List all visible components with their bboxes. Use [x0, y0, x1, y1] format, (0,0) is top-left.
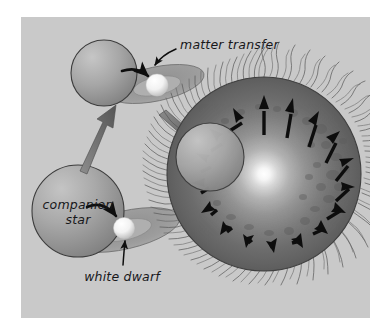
- diagram-panel: companion star white dwarf: [21, 17, 370, 318]
- matter-transfer-label: matter transfer: [180, 37, 279, 52]
- matter-transfer-leader-line: [155, 49, 176, 65]
- white-dwarf-stage2: [146, 74, 168, 96]
- matter-transfer-label-group: matter transfer: [155, 37, 279, 65]
- companion-star-label-line2: star: [65, 212, 91, 227]
- white-dwarf-label: white dwarf: [84, 269, 161, 284]
- arrow-stage1-to-stage2: [80, 105, 116, 174]
- companion-star-label-line1: companion: [42, 197, 113, 212]
- companion-star-stage3: [176, 123, 244, 191]
- white-dwarf-stage1: [114, 218, 135, 239]
- supernova-scene: companion star white dwarf: [21, 17, 370, 318]
- diagram-root: companion star white dwarf: [0, 0, 387, 334]
- stage-arrow-1-shape: [80, 105, 116, 174]
- companion-star-stage2: [71, 40, 137, 106]
